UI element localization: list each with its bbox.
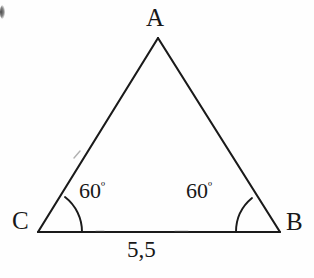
triangle-svg [0, 0, 314, 278]
angle-label-b-value: 60 [186, 178, 208, 203]
angle-label-c-value: 60 [79, 178, 101, 203]
base-length-label: 5,5 [127, 238, 156, 261]
degree-icon: º [101, 178, 105, 193]
vertex-label-c: C [12, 208, 29, 233]
angle-label-b: 60º [186, 180, 212, 202]
side-AB [158, 38, 280, 232]
degree-icon: º [208, 178, 212, 193]
angle-label-c: 60º [79, 180, 105, 202]
angle-arc-B [236, 198, 252, 232]
vertex-label-a: A [146, 5, 164, 30]
vertex-label-b: B [286, 209, 303, 234]
triangle-outline [38, 38, 280, 232]
triangle-diagram: A B C 60º 60º 5,5 [0, 0, 314, 278]
